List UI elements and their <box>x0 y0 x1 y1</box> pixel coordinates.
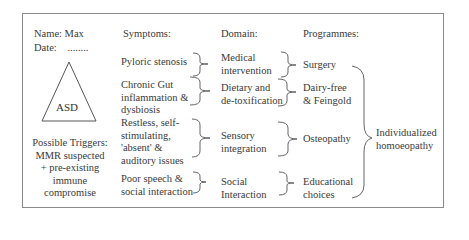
programme-line: Educational <box>303 176 353 189</box>
large-brace-icon <box>352 66 372 198</box>
symptom-line: Chronic Gut <box>121 79 188 92</box>
programmes-header: Programmes: <box>303 28 359 41</box>
symptom-cell: Pyloric stenosis <box>121 56 187 69</box>
overall-programme: Individualized homoeopathy <box>376 127 437 152</box>
symptom-cell: Poor speech & social interaction <box>121 173 193 198</box>
symptom-line: Restless, self- <box>121 117 184 130</box>
domain-line: Sensory <box>221 130 267 143</box>
domain-header: Domain: <box>221 28 258 41</box>
symptom-line: inflammation & <box>121 92 188 105</box>
symptom-line: auditory issues <box>121 155 184 168</box>
programme-line: choices <box>303 189 353 202</box>
diagnosis-label: ASD <box>56 101 78 113</box>
domain-line: de-toxification <box>221 95 283 108</box>
programme-line: Dairy-free <box>303 82 351 95</box>
domain-line: integration <box>221 143 267 156</box>
domain-line: intervention <box>221 65 272 78</box>
brace-icon <box>278 122 297 156</box>
domain-cell: Medical intervention <box>221 52 272 77</box>
symptom-cell: Chronic Gut inflammation & dysbiosis <box>121 79 188 117</box>
possible-triggers: Possible Triggers: MMR suspected + pre-e… <box>22 137 118 200</box>
domain-cell: Sensory integration <box>221 130 267 155</box>
overall-line: Individualized <box>376 127 437 140</box>
symptoms-header: Symptoms: <box>123 28 171 41</box>
domain-line: Dietary and <box>221 82 283 95</box>
programme-cell: Educational choices <box>303 176 353 201</box>
triggers-line: Possible Triggers: <box>22 137 118 150</box>
domain-cell: Social Interaction <box>221 176 266 201</box>
programme-cell: Surgery <box>303 59 336 72</box>
symptom-line: 'absent' & <box>121 142 184 155</box>
symptom-line: dysbiosis <box>121 104 188 117</box>
triggers-line: MMR suspected <box>22 150 118 163</box>
brace-icon <box>279 172 294 195</box>
brace-icon <box>193 172 206 193</box>
symptom-line: social interaction <box>121 186 193 199</box>
symptom-cell: Restless, self- stimulating, 'absent' & … <box>121 117 184 167</box>
domain-cell: Dietary and de-toxification <box>221 82 283 107</box>
symptom-line: Poor speech & <box>121 173 193 186</box>
brace-icon <box>192 119 210 157</box>
programme-cell: Dairy-free & Feingold <box>303 82 351 107</box>
domain-line: Social <box>221 176 266 189</box>
overall-line: homoeopathy <box>376 140 437 153</box>
brace-icon <box>193 53 208 76</box>
triggers-line: + pre-existing <box>22 162 118 175</box>
domain-line: Interaction <box>221 189 266 202</box>
domain-line: Medical <box>221 52 272 65</box>
programme-line: & Feingold <box>303 95 351 108</box>
symptom-line: stimulating, <box>121 130 184 143</box>
brace-icon <box>190 77 210 105</box>
brace-icon <box>281 52 296 77</box>
programme-cell: Osteopathy <box>303 133 351 146</box>
triggers-line: immune <box>22 175 118 188</box>
triggers-line: compromise <box>22 187 118 200</box>
